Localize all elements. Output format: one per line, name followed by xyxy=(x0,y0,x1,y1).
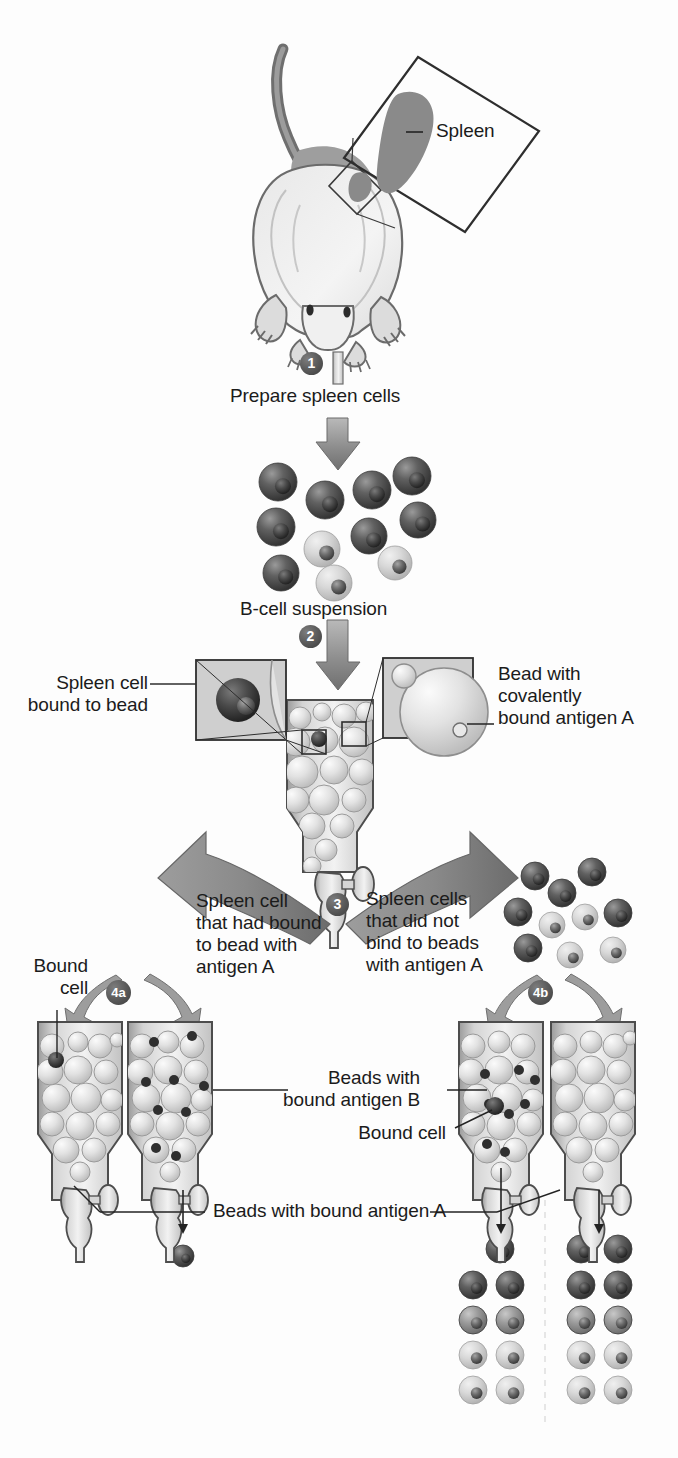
cell xyxy=(496,1376,524,1404)
label-spleen-cell-bound-to-bead: Spleen cell bound to bead xyxy=(8,672,148,716)
label-spleen: Spleen xyxy=(436,120,495,142)
step-badge-4b: 4b xyxy=(528,980,553,1005)
step1-tube-and-arrow xyxy=(316,352,360,470)
step-badge-1: 1 xyxy=(300,352,323,375)
cell xyxy=(604,1306,632,1334)
label-prepare-spleen-cells: Prepare spleen cells xyxy=(230,385,400,407)
label-bound-cell-right: Bound cell xyxy=(316,1122,446,1144)
output-cells-4a xyxy=(172,1245,194,1267)
cell xyxy=(378,546,412,580)
cell xyxy=(304,531,340,567)
cell xyxy=(604,1271,632,1299)
cell xyxy=(306,481,344,519)
label-b-cell-suspension: B-cell suspension xyxy=(240,598,387,620)
cell xyxy=(521,862,549,890)
cell xyxy=(316,565,352,601)
cell xyxy=(393,457,431,495)
output-cells-4b-left xyxy=(459,1235,524,1404)
cell xyxy=(548,879,576,907)
cell xyxy=(604,1376,632,1404)
step-badge-4a: 4a xyxy=(106,980,131,1005)
cell xyxy=(263,555,299,591)
step-badge-3: 3 xyxy=(326,893,349,916)
cell xyxy=(496,1341,524,1369)
b-cell-suspension-cells xyxy=(257,457,436,601)
label-beads-with-bound-antigen-b: Beads with bound antigen B xyxy=(240,1067,420,1111)
label-spleen-cell-that-had-bound: Spleen cell that had bound to bead with … xyxy=(196,890,336,978)
cell xyxy=(459,1376,487,1404)
cell xyxy=(172,1245,194,1267)
cell xyxy=(604,1341,632,1369)
label-spleen-cells-that-did-not-bind: Spleen cells that did not bind to beads … xyxy=(366,888,518,976)
cell xyxy=(351,518,387,554)
cell xyxy=(496,1271,524,1299)
cell xyxy=(353,471,391,509)
cell xyxy=(496,1306,524,1334)
cell xyxy=(600,937,626,963)
cell xyxy=(514,934,542,962)
cell xyxy=(567,1306,595,1334)
cell xyxy=(259,463,297,501)
cell xyxy=(567,1271,595,1299)
diagram-artwork xyxy=(0,0,678,1458)
cell xyxy=(539,912,565,938)
unbound-spleen-cells xyxy=(504,858,632,968)
label-bead-with-covalently-bound-antigen-a: Bead with covalently bound antigen A xyxy=(498,663,674,729)
step-badge-2: 2 xyxy=(299,625,322,648)
cell xyxy=(557,942,583,968)
cell xyxy=(578,858,606,886)
cell xyxy=(572,904,598,930)
cell xyxy=(567,1376,595,1404)
diagram-canvas: Spleen Prepare spleen cells B-cell suspe… xyxy=(0,0,678,1458)
cell xyxy=(567,1341,595,1369)
cell xyxy=(604,899,632,927)
cell xyxy=(604,1235,632,1263)
step2-arrow xyxy=(316,620,360,690)
cell xyxy=(459,1271,487,1299)
inset-bead-with-antigen-a xyxy=(366,658,494,756)
mouse-illustration xyxy=(251,49,405,372)
cell xyxy=(459,1306,487,1334)
label-bound-cell-left: Bound cell xyxy=(0,955,88,999)
output-cells-4b-right xyxy=(567,1235,632,1404)
columns-4a xyxy=(37,974,213,1262)
cell xyxy=(400,502,436,538)
label-beads-with-bound-antigen-a: Beads with bound antigen A xyxy=(213,1200,446,1222)
cell xyxy=(257,508,295,546)
cell xyxy=(459,1341,487,1369)
